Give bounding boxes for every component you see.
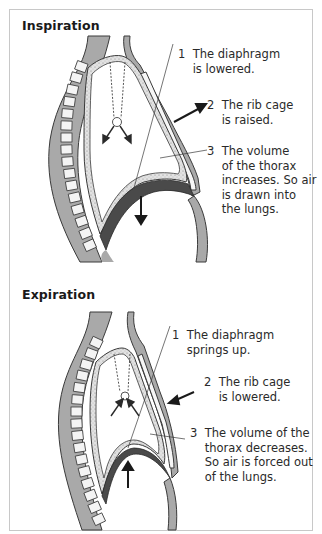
rib-cage-outward-arrow — [174, 104, 206, 122]
abdomen-tissue — [188, 196, 208, 262]
label-text: The diaphragm springs up. — [187, 328, 274, 357]
label-number: 3 — [207, 144, 214, 158]
abdomen-tissue — [164, 478, 177, 530]
label-3-expiration: 3 The volume of the thorax decreases. So… — [190, 426, 313, 484]
label-text: The diaphragm is lowered. — [193, 47, 280, 76]
diaphragm-up-arrow — [123, 462, 133, 488]
label-number: 2 — [204, 375, 211, 389]
label-number: 1 — [172, 328, 179, 342]
label-number: 2 — [207, 98, 214, 112]
label-3-inspiration: 3 The volume of the thorax increases. So… — [207, 144, 316, 217]
label-1-expiration: 1 The diaphragm springs up. — [172, 328, 274, 357]
label-2-inspiration: 2 The rib cage is raised. — [207, 98, 293, 127]
label-text: The rib cage is lowered. — [219, 375, 291, 404]
label-1-inspiration: 1 The diaphragm is lowered. — [178, 47, 280, 76]
label-number: 1 — [178, 47, 185, 61]
label-text: The volume of the thorax decreases. So a… — [205, 426, 313, 484]
label-2-expiration: 2 The rib cage is lowered. — [204, 375, 290, 404]
label-text: The rib cage is raised. — [222, 98, 294, 127]
panel-expiration: Expiration — [10, 272, 314, 532]
rib-cage-inward-arrow — [169, 392, 194, 404]
label-text: The volume of the thorax increases. So a… — [222, 144, 317, 217]
figure-frame: Inspiration — [9, 9, 313, 531]
label-number: 3 — [190, 426, 197, 440]
panel-inspiration: Inspiration — [10, 10, 314, 272]
abdomen-back — [101, 250, 114, 262]
